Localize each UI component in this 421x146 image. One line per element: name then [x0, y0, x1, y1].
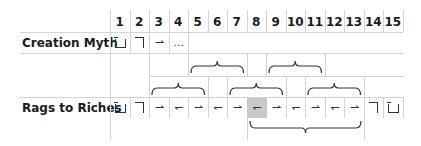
grid-vline — [247, 118, 248, 140]
grid-vline — [208, 76, 209, 97]
grid-vline — [227, 10, 228, 32]
grid-vline — [188, 53, 189, 76]
column-header-4: 4 — [169, 12, 189, 32]
box-open-icon — [384, 98, 404, 118]
column-header-14: 14 — [364, 12, 384, 32]
grid-vline — [169, 10, 170, 32]
column-header-3: 3 — [149, 12, 169, 32]
grid-vline — [364, 76, 365, 97]
box-open-icon — [111, 33, 131, 53]
column-header-5: 5 — [188, 12, 208, 32]
grid-vline — [188, 10, 189, 32]
top-brace-11-13 — [307, 82, 362, 96]
left-arrow-icon: ↽ — [286, 98, 306, 118]
grid-vline — [130, 10, 131, 32]
grid-vline — [247, 10, 248, 32]
column-header-1: 1 — [110, 12, 130, 32]
bottom-brace-8-13 — [249, 120, 362, 134]
top-brace-5-7 — [190, 60, 245, 74]
row-label-creation-myth: Creation Myth — [22, 33, 118, 53]
grid-vline — [364, 10, 365, 32]
left-arrow-icon: ↽ — [208, 98, 228, 118]
grid-vline — [325, 53, 326, 76]
grid-vline — [110, 10, 111, 140]
right-arrow-icon: ⇀ — [228, 98, 248, 118]
column-header-7: 7 — [227, 12, 247, 32]
corner-icon — [130, 98, 150, 118]
grid-vline — [383, 10, 384, 32]
grid-vline — [208, 10, 209, 32]
left-arrow-icon: ↽ — [247, 98, 267, 118]
grid-vline — [305, 76, 306, 97]
right-arrow-icon: ⇀ — [306, 98, 326, 118]
grid-vline — [266, 53, 267, 76]
grid-vline — [149, 10, 150, 32]
grid-vline — [266, 10, 267, 32]
left-arrow-icon: ↽ — [325, 98, 345, 118]
column-header-15: 15 — [383, 12, 403, 32]
column-header-10: 10 — [286, 12, 306, 32]
grid-hline — [20, 53, 403, 54]
column-header-8: 8 — [247, 12, 267, 32]
top-brace-7-9 — [229, 82, 284, 96]
grid-vline — [305, 10, 306, 32]
grid-hline — [20, 32, 403, 33]
grid-vline — [403, 10, 404, 32]
corner-icon — [364, 98, 384, 118]
column-header-12: 12 — [325, 12, 345, 32]
column-header-11: 11 — [305, 12, 325, 32]
grid-vline — [227, 76, 228, 97]
corner-icon — [130, 33, 150, 53]
column-header-2: 2 — [130, 12, 150, 32]
column-header-9: 9 — [266, 12, 286, 32]
grid-vline — [364, 118, 365, 140]
grid-vline — [344, 10, 345, 32]
ellipsis-icon: … — [169, 33, 189, 53]
grid-vline — [286, 76, 287, 97]
box-open-icon — [111, 98, 131, 118]
right-arrow-icon: ⇀ — [267, 98, 287, 118]
right-arrow-icon: ⇀ — [189, 98, 209, 118]
left-arrow-icon: ↽ — [169, 98, 189, 118]
right-arrow-icon: ⇀ — [150, 33, 170, 53]
right-arrow-icon: ⇀ — [345, 98, 365, 118]
column-header-13: 13 — [344, 12, 364, 32]
top-brace-9-11 — [268, 60, 323, 74]
right-arrow-icon: ⇀ — [150, 98, 170, 118]
grid-vline — [247, 53, 248, 76]
column-header-6: 6 — [208, 12, 228, 32]
row-label-rags-to-riches: Rags to Riches — [22, 98, 122, 118]
top-brace-3-5 — [151, 82, 206, 96]
grid-vline — [286, 10, 287, 32]
grid-vline — [149, 53, 150, 97]
grid-vline — [325, 10, 326, 32]
